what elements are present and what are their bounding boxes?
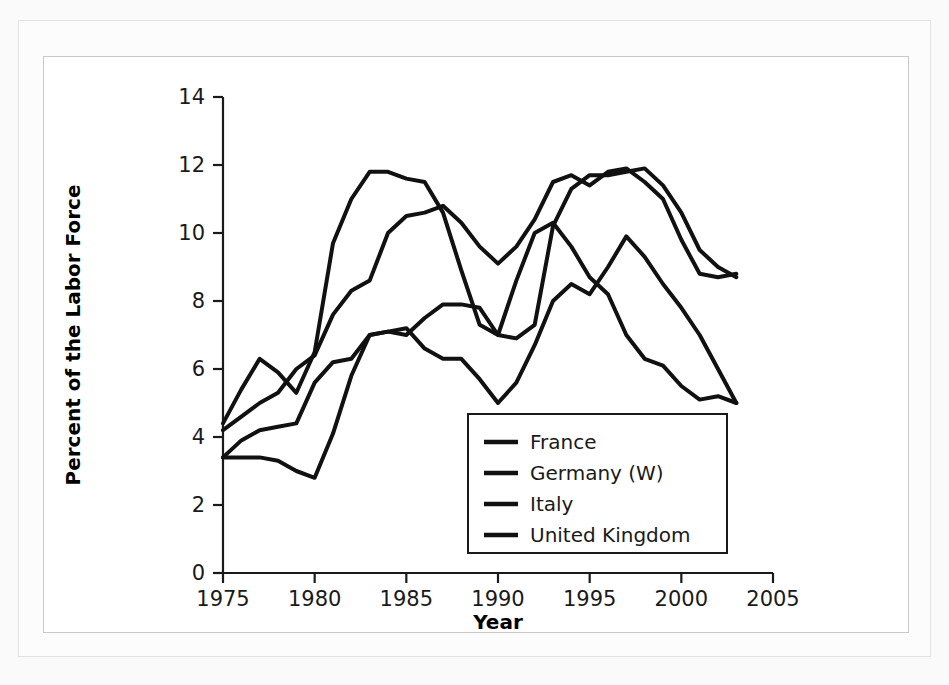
- x-axis-title: Year: [472, 610, 523, 632]
- y-tick-label: 14: [178, 85, 205, 109]
- legend-label-germany-w: Germany (W): [530, 461, 664, 485]
- chart-legend: FranceGermany (W)ItalyUnited Kingdom: [468, 414, 727, 553]
- y-tick-label: 2: [192, 493, 205, 517]
- x-tick-label: 2000: [655, 587, 708, 611]
- x-tick-label: 1990: [471, 587, 524, 611]
- y-axis-title: Percent of the Labor Force: [61, 185, 85, 486]
- y-tick-label: 10: [178, 221, 205, 245]
- legend-label-italy: Italy: [530, 492, 574, 516]
- y-tick-label: 12: [178, 153, 205, 177]
- y-tick-label-group: 02468101214: [178, 85, 205, 585]
- page-root: 02468101214 1975198019851990199520002005…: [0, 0, 949, 685]
- line-chart: 02468101214 1975198019851990199520002005…: [44, 57, 908, 632]
- y-tick-label: 6: [192, 357, 205, 381]
- x-tick-label: 1995: [563, 587, 616, 611]
- x-tick-label: 1985: [380, 587, 433, 611]
- y-tick-group: [213, 97, 223, 573]
- y-tick-label: 8: [192, 289, 205, 313]
- legend-label-united-kingdom: United Kingdom: [530, 523, 691, 547]
- y-tick-label: 4: [192, 425, 205, 449]
- series-line-united-kingdom: [223, 172, 736, 424]
- legend-label-france: France: [530, 430, 597, 454]
- x-tick-group: [223, 573, 773, 583]
- figure-panel: 02468101214 1975198019851990199520002005…: [43, 56, 909, 633]
- x-tick-label-group: 1975198019851990199520002005: [196, 587, 799, 611]
- y-tick-label: 0: [192, 561, 205, 585]
- x-tick-label: 2005: [746, 587, 799, 611]
- series-line-france: [223, 168, 736, 430]
- x-tick-label: 1975: [196, 587, 249, 611]
- x-tick-label: 1980: [288, 587, 341, 611]
